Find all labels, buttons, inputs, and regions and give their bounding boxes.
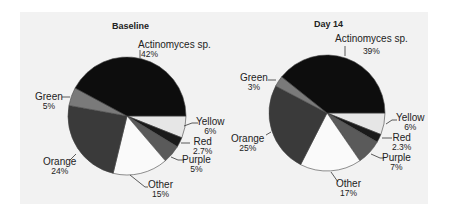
label-purple: Purple 7% [382, 153, 411, 172]
baseline-pie [68, 57, 186, 175]
label-green: Green 5% [35, 92, 63, 111]
label-pct: 7% [382, 163, 411, 172]
label-actinomyces: Actinomyces sp. 42% [138, 40, 211, 59]
label-pct: 6% [196, 127, 225, 136]
label-purple: Purple 5% [182, 155, 211, 174]
label-green: Green 3% [240, 73, 268, 92]
label-orange: Orange 24% [43, 157, 76, 176]
baseline-title: Baseline [112, 21, 149, 31]
label-pct: 5% [182, 165, 211, 174]
label-red: Red 2.3% [392, 133, 411, 152]
label-pct: 42% [138, 50, 211, 59]
label-other: Other 17% [336, 179, 361, 198]
label-yellow: Yellow 6% [396, 113, 425, 132]
label-pct: 5% [35, 102, 63, 111]
label-pct: 15% [148, 190, 173, 199]
pie-charts [0, 0, 458, 213]
label-pct: 2.3% [392, 143, 411, 152]
label-pct: 6% [396, 123, 425, 132]
day14-pie [269, 55, 385, 171]
label-name: Actinomyces sp. [335, 33, 408, 44]
label-other: Other 15% [148, 180, 173, 199]
label-pct: 39% [335, 47, 408, 56]
label-pct: 25% [231, 144, 264, 153]
label-pct: 3% [240, 83, 268, 92]
label-yellow: Yellow 6% [196, 117, 225, 136]
label-orange: Orange 25% [231, 134, 264, 153]
label-pct: 24% [43, 167, 76, 176]
label-pct: 17% [336, 189, 361, 198]
label-actinomyces: Actinomyces sp. 39% [335, 34, 408, 56]
day14-title: Day 14 [314, 19, 343, 29]
